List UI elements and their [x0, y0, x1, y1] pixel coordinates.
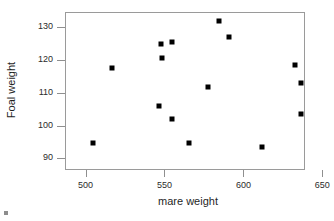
data-point [158, 41, 163, 46]
y-axis-tick-label: 120 [13, 55, 53, 64]
data-point [109, 65, 114, 70]
x-axis-tick-label: 600 [223, 180, 263, 190]
data-point [217, 18, 222, 23]
x-axis-title-text: mare weight [158, 195, 218, 207]
y-axis-tick [57, 158, 65, 159]
data-point [259, 144, 264, 149]
y-axis-tick [57, 27, 65, 28]
x-axis-title: mare weight [0, 195, 321, 207]
scan-artifact [4, 211, 8, 215]
x-axis-tick-label: 550 [144, 180, 184, 190]
data-point [299, 111, 304, 116]
y-axis-tick-label: 100 [13, 121, 53, 130]
x-axis-tick [322, 170, 323, 177]
data-point [169, 117, 174, 122]
data-point [160, 56, 165, 61]
y-axis-tick [57, 93, 65, 94]
data-point [299, 80, 304, 85]
x-axis-tick [243, 170, 244, 177]
data-point [206, 85, 211, 90]
x-axis-tick [86, 170, 87, 177]
data-point [157, 103, 162, 108]
x-axis-tick-label: 650 [302, 180, 334, 190]
y-axis-tick [57, 60, 65, 61]
y-axis-tick-label: 90 [13, 153, 53, 162]
data-point [226, 35, 231, 40]
data-point [90, 141, 95, 146]
x-axis-tick [164, 170, 165, 177]
y-axis-tick-label: 110 [13, 88, 53, 97]
data-point [187, 141, 192, 146]
data-point [292, 63, 297, 68]
x-axis-tick-label: 500 [66, 180, 106, 190]
data-point [169, 40, 174, 45]
plot-area [65, 12, 305, 170]
y-axis-tick [57, 126, 65, 127]
y-axis-tick-label: 130 [13, 22, 53, 31]
